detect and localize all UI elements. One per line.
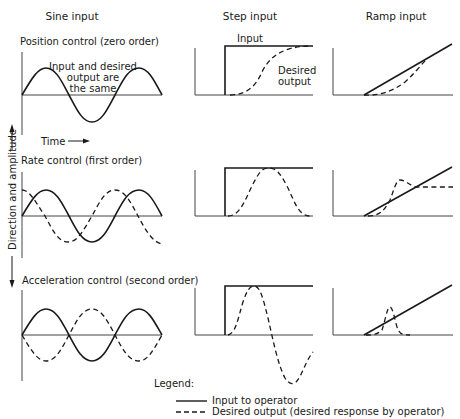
panel-step-position: Input Desired output xyxy=(195,33,316,95)
annotation-same-1: Input and desired xyxy=(49,61,137,72)
legend-title: Legend: xyxy=(154,378,194,389)
panel-step-acceleration xyxy=(195,286,313,384)
column-header-sine: Sine input xyxy=(45,10,98,22)
y-axis-label: Direction and amplitude xyxy=(7,129,18,250)
column-header-ramp: Ramp input xyxy=(366,10,427,22)
desired-output-curve xyxy=(228,168,310,216)
control-order-diagram: Sine input Step input Ramp input Positio… xyxy=(0,0,460,419)
panel-sine-rate xyxy=(22,172,162,258)
time-axis-indicator: Time xyxy=(40,136,90,147)
input-ramp xyxy=(364,44,452,95)
arrow-down-icon xyxy=(10,280,15,288)
column-header-step: Step input xyxy=(223,10,277,22)
legend-dashed-label: Desired output (desired response by oper… xyxy=(212,406,445,417)
legend-solid-label: Input to operator xyxy=(212,395,298,406)
row-label-position-control: Position control (zero order) xyxy=(20,36,159,47)
panel-sine-position: Input and desired output are the same xyxy=(22,52,162,135)
input-ramp xyxy=(364,285,452,335)
annotation-same-2: output are xyxy=(67,72,119,83)
panel-ramp-position xyxy=(333,44,453,95)
annotation-desired-1: Desired xyxy=(278,65,316,76)
annotation-same-3: the same xyxy=(70,83,117,94)
arrow-right-icon xyxy=(83,139,90,144)
annotation-desired-2: output xyxy=(278,76,311,87)
panel-ramp-rate xyxy=(333,167,453,216)
input-step xyxy=(225,286,313,335)
legend: Legend: Input to operator Desired output… xyxy=(154,378,445,417)
time-label: Time xyxy=(40,136,65,147)
row-label-rate-control: Rate control (first order) xyxy=(21,155,142,166)
input-ramp xyxy=(364,167,452,216)
panel-step-rate xyxy=(195,168,313,216)
panel-ramp-acceleration xyxy=(333,285,453,335)
annotation-input: Input xyxy=(237,33,263,44)
desired-output-curve xyxy=(368,180,453,216)
input-step xyxy=(225,168,313,216)
desired-output-curve xyxy=(22,190,162,244)
panel-sine-acceleration xyxy=(22,290,162,381)
y-axis-indicator: Direction and amplitude xyxy=(7,124,18,288)
row-label-acceleration-control: Acceleration control (second order) xyxy=(22,275,199,286)
